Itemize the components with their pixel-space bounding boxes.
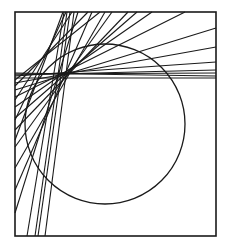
tangent-line [15,12,185,97]
tangent-line [45,12,74,236]
tangent-line [15,12,152,107]
envelope-diagram [0,0,228,251]
tangent-lines-family [15,12,216,236]
circle [25,44,185,204]
